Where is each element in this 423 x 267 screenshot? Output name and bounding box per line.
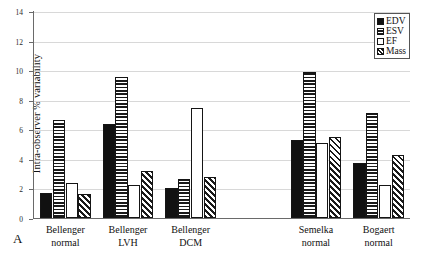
legend-label: Mass xyxy=(386,46,406,56)
bar-esv xyxy=(115,77,127,218)
category-label: BellengerLVH xyxy=(97,224,160,249)
legend-swatch-icon xyxy=(377,48,384,55)
legend-item-mass: Mass xyxy=(377,46,406,56)
category-label-line: normal xyxy=(347,237,410,250)
bar-group xyxy=(103,11,154,218)
bar-mass xyxy=(329,137,341,218)
bar-mass xyxy=(78,194,90,218)
category-label: Bogaertnormal xyxy=(347,224,410,249)
y-axis-tick-label: 10 xyxy=(16,67,24,76)
legend-item-ef: EF xyxy=(377,36,406,46)
y-axis-tick: 6 xyxy=(29,130,33,131)
y-axis-tick: 14 xyxy=(29,12,33,13)
y-axis-tick-label: 4 xyxy=(19,155,23,164)
category-label-line: normal xyxy=(34,237,97,250)
y-axis-tick-label: 14 xyxy=(16,8,24,17)
y-axis-tick: 10 xyxy=(29,71,33,72)
bar-group xyxy=(291,11,342,218)
legend-label: EF xyxy=(386,36,397,46)
bar-ef xyxy=(191,108,203,218)
bar-edv xyxy=(353,163,365,218)
legend-item-edv: EDV xyxy=(377,16,406,26)
bar-esv xyxy=(53,120,65,218)
legend-label: EDV xyxy=(386,16,406,26)
category-label-line: Bogaert xyxy=(347,224,410,237)
legend-item-esv: ESV xyxy=(377,26,406,36)
bar-ef xyxy=(66,183,78,218)
y-axis-tick: 0 xyxy=(29,219,33,220)
category-label-line: DCM xyxy=(159,237,222,250)
bar-esv xyxy=(366,113,378,218)
bar-ef xyxy=(379,185,391,218)
legend-swatch-icon xyxy=(377,18,384,25)
legend-label: ESV xyxy=(386,26,404,36)
y-axis-tick-label: 8 xyxy=(19,96,23,105)
y-axis-tick: 12 xyxy=(29,42,33,43)
chart-legend: EDVESVEFMass xyxy=(374,13,410,59)
category-label: BellengerDCM xyxy=(159,224,222,249)
category-label-line: Bellenger xyxy=(159,224,222,237)
bar-group xyxy=(165,11,216,218)
bar-mass xyxy=(141,171,153,218)
y-axis-tick-label: 12 xyxy=(16,37,24,46)
panel-letter: A xyxy=(13,231,22,247)
category-label-line: Semelka xyxy=(285,224,348,237)
y-axis-tick: 4 xyxy=(29,160,33,161)
bar-edv xyxy=(291,140,303,218)
category-label-line: LVH xyxy=(97,237,160,250)
bar-edv xyxy=(40,193,52,218)
bar-mass xyxy=(204,177,216,218)
bar-group xyxy=(40,11,91,218)
y-axis-tick-label: 0 xyxy=(19,215,23,224)
bar-series-container xyxy=(34,11,410,218)
bar-esv xyxy=(178,179,190,218)
category-label-line: Bellenger xyxy=(97,224,160,237)
bar-ef xyxy=(128,185,140,218)
figure-panel-a: Intra-observer % variability 02468101214… xyxy=(0,0,423,267)
y-axis-tick: 8 xyxy=(29,101,33,102)
legend-swatch-icon xyxy=(377,28,384,35)
bar-edv xyxy=(165,188,177,218)
category-label-line: normal xyxy=(285,237,348,250)
category-label-line: Bellenger xyxy=(34,224,97,237)
plot-area: 02468101214 xyxy=(33,11,410,219)
bar-edv xyxy=(103,124,115,218)
bar-esv xyxy=(303,72,315,218)
category-label: Bellengernormal xyxy=(34,224,97,249)
bar-ef xyxy=(316,143,328,218)
y-axis-tick: 2 xyxy=(29,189,33,190)
bar-mass xyxy=(392,155,404,218)
y-axis-tick-label: 6 xyxy=(19,126,23,135)
category-label: Semelkanormal xyxy=(285,224,348,249)
legend-swatch-icon xyxy=(377,38,384,45)
x-axis-line xyxy=(33,218,410,219)
y-axis-tick-label: 2 xyxy=(19,185,23,194)
